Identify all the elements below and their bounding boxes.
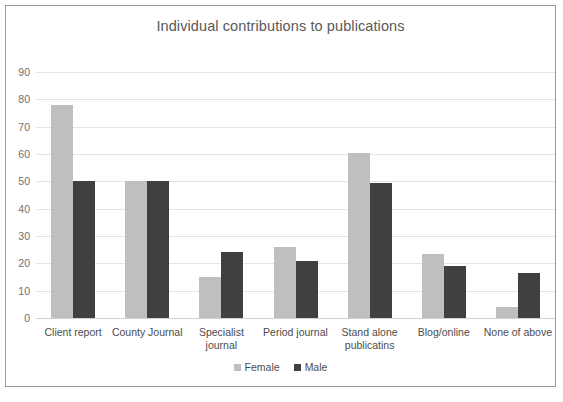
bar-female[interactable] [199,277,221,318]
bar-female[interactable] [274,247,296,318]
chart-frame: Individual contributions to publications… [5,5,556,387]
bar-male[interactable] [147,181,169,318]
legend-label: Male [305,361,328,373]
bar-male[interactable] [296,261,318,318]
y-axis-label-20: 20 [18,257,30,269]
x-axis-label: None of above [481,326,555,339]
x-axis-label: Stand alone publicatins [333,326,407,351]
x-axis-label: Blog/online [407,326,481,339]
gridline-0 [36,318,555,319]
y-axis-label-40: 40 [18,203,30,215]
bar-group [422,72,466,318]
female-color-swatch [234,364,241,371]
x-axis-label: Period journal [258,326,332,339]
bar-female[interactable] [422,254,444,318]
y-axis-label-30: 30 [18,230,30,242]
bar-female[interactable] [496,307,518,318]
legend-item-female[interactable]: Female [234,361,280,373]
y-axis-label-50: 50 [18,175,30,187]
bar-male[interactable] [518,273,540,318]
y-axis-label-10: 10 [18,285,30,297]
y-axis-label-80: 80 [18,93,30,105]
bar-female[interactable] [125,181,147,318]
bar-male[interactable] [221,252,243,318]
x-axis-label: Specialist journal [184,326,258,351]
x-axis-label: Client report [36,326,110,339]
bar-group [348,72,392,318]
y-axis-label-0: 0 [24,312,30,324]
bar-group [274,72,318,318]
bar-group [496,72,540,318]
y-axis-label-90: 90 [18,66,30,78]
plot-area: 0102030405060708090 Client reportCounty … [36,72,555,318]
bar-female[interactable] [348,153,370,318]
male-color-swatch [294,364,301,371]
legend-item-male[interactable]: Male [294,361,328,373]
bar-group [51,72,95,318]
bars-layer [36,72,555,318]
bar-male[interactable] [73,181,95,318]
x-axis-label: County Journal [110,326,184,339]
bar-group [125,72,169,318]
y-axis-label-70: 70 [18,121,30,133]
bar-female[interactable] [51,105,73,318]
bar-group [199,72,243,318]
legend-label: Female [245,361,280,373]
chart-title: Individual contributions to publications [6,18,555,34]
y-axis-label-60: 60 [18,148,30,160]
bar-male[interactable] [370,183,392,318]
bar-male[interactable] [444,266,466,318]
chart-legend: FemaleMale [6,361,555,373]
